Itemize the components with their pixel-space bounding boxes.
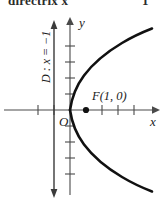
directrix-label: D : x = −1 — [39, 31, 53, 84]
origin-label: O — [59, 114, 69, 129]
parabola-figure: directrix x 1 — [0, 0, 164, 204]
focus-point — [83, 107, 89, 113]
caption-text-right: 1 — [142, 0, 149, 9]
caption-strip: directrix x 1 — [0, 0, 164, 13]
parabola-plot: y x O F(1, 0) D : x = −1 — [0, 13, 164, 204]
focus-label: F(1, 0) — [91, 89, 127, 103]
y-axis-label: y — [77, 15, 85, 30]
caption-text-left: directrix x — [8, 0, 68, 9]
x-axis-label: x — [149, 114, 156, 129]
x-axis — [4, 106, 160, 114]
